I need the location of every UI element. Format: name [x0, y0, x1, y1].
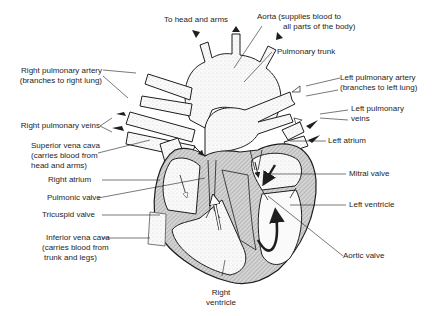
- label-right-pulmonary-veins: Right pulmonary veins: [10, 121, 100, 131]
- label-to-head-and-arms: To head and arms: [164, 15, 228, 25]
- label-pulmonic-valve: Pulmonic valve: [47, 193, 101, 203]
- right-atrium-cavity: [163, 158, 200, 214]
- label-tricuspid-valve: Tricuspid valve: [42, 210, 95, 220]
- label-mitral-valve: Mitral valve: [349, 169, 389, 179]
- label-aortic-valve: Aortic valve: [343, 251, 384, 261]
- label-inferior-vena-cava: Inferior vena cava (carries blood from t…: [42, 233, 110, 263]
- label-aorta: Aorta (supplies blood to all parts of th…: [257, 12, 355, 32]
- label-pulmonary-trunk: Pulmonary trunk: [277, 47, 335, 57]
- label-left-ventricle: Left ventricle: [349, 200, 394, 210]
- label-superior-vena-cava: Superior vena cava (carries blood from h…: [31, 141, 100, 171]
- label-left-atrium: Left atrium: [328, 136, 366, 146]
- left-atrium-cavity: [252, 153, 302, 190]
- heart-diagram: To head and arms Aorta (supplies blood t…: [0, 0, 435, 316]
- label-right-ventricle: Right ventricle: [201, 288, 241, 308]
- heart-wall: [154, 144, 316, 284]
- inferior-vena-cava: [148, 212, 166, 246]
- label-right-atrium: Right atrium: [48, 175, 91, 185]
- label-right-pulmonary-artery: Right pulmonary artery (branches to righ…: [14, 66, 102, 86]
- label-left-pulmonary-veins: Left pulmonary veins: [351, 104, 404, 124]
- left-ventricle-cavity: [258, 190, 301, 264]
- label-left-pulmonary-artery: Left pulmonary artery (branches to left …: [340, 73, 417, 93]
